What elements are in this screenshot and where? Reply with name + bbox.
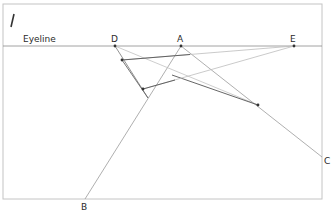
label-a: A — [177, 35, 183, 44]
figure-mark — [11, 14, 14, 27]
point-p2 — [142, 88, 145, 91]
perspective-diagram — [0, 0, 331, 213]
line-p1-bottom — [122, 60, 148, 98]
point-p3 — [257, 104, 260, 107]
label-e: E — [290, 35, 296, 44]
line-p1-e-dark — [122, 55, 190, 61]
point-e — [293, 45, 296, 48]
point-d — [114, 45, 117, 48]
point-a — [180, 45, 183, 48]
label-b: B — [81, 203, 87, 212]
line-a-c — [181, 46, 322, 157]
label-c: C — [324, 157, 330, 166]
line-d-p3-dark — [172, 75, 258, 105]
point-p1 — [121, 59, 124, 62]
label-d: D — [111, 35, 118, 44]
line-a-b — [85, 46, 181, 199]
eyeline-label: Eyeline — [23, 35, 56, 44]
